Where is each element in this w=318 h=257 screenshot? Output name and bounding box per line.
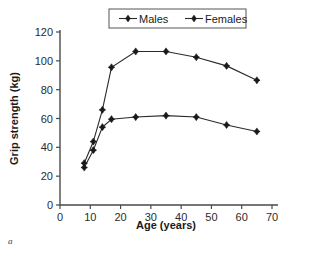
legend-label-females: Females bbox=[205, 13, 248, 25]
chart-axis-titles: Age (years)Grip strength (kg) bbox=[8, 72, 196, 231]
x-tick-label: 50 bbox=[205, 211, 217, 223]
x-tick-label: 10 bbox=[84, 211, 96, 223]
series-line-females bbox=[84, 116, 257, 168]
y-axis-title: Grip strength (kg) bbox=[8, 72, 20, 165]
x-tick-label: 60 bbox=[236, 211, 248, 223]
figure-container: 020406080100120010203040506070 MalesFema… bbox=[0, 0, 318, 257]
x-tick-label: 20 bbox=[114, 211, 126, 223]
chart-legend: MalesFemales bbox=[109, 9, 248, 28]
chart-axes: 020406080100120010203040506070 bbox=[35, 26, 278, 223]
y-tick-label: 0 bbox=[47, 199, 53, 211]
x-tick-label: 70 bbox=[266, 211, 278, 223]
y-tick-label: 40 bbox=[41, 141, 53, 153]
y-tick-label: 60 bbox=[41, 113, 53, 125]
x-axis-title: Age (years) bbox=[136, 219, 196, 231]
y-tick-label: 20 bbox=[41, 170, 53, 182]
legend-label-males: Males bbox=[139, 13, 169, 25]
x-tick-label: 0 bbox=[57, 211, 63, 223]
y-tick-label: 80 bbox=[41, 84, 53, 96]
y-tick-label: 120 bbox=[35, 26, 53, 38]
grip-strength-line-chart: 020406080100120010203040506070 MalesFema… bbox=[0, 0, 318, 232]
axis-lines bbox=[60, 30, 278, 205]
figure-caption: a bbox=[8, 236, 13, 246]
chart-series bbox=[81, 48, 260, 171]
y-tick-label: 100 bbox=[35, 55, 53, 67]
